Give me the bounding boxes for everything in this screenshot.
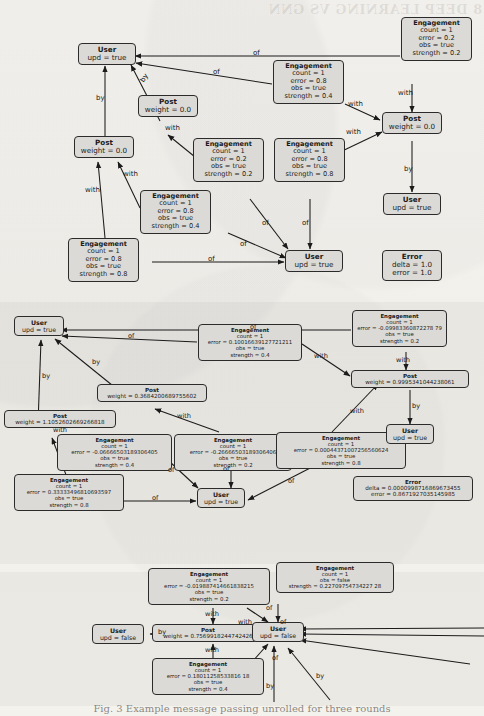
node-field: strength = 0.4	[144, 223, 207, 231]
node-field: strength = 0.2	[152, 596, 266, 602]
node-post[interactable]: Post weight = 0.7569918244742426	[152, 624, 264, 642]
edge-label: of	[128, 332, 134, 340]
node-field: weight = 0.0	[78, 147, 130, 155]
node-field: weight = 0.0	[386, 123, 438, 131]
edge-label: of	[302, 219, 309, 227]
node-field: strength = 0.2	[405, 50, 468, 58]
edge-label: with	[53, 426, 67, 434]
edge-label: of	[262, 219, 269, 227]
edge-label: of	[272, 654, 278, 662]
edge-label: with	[396, 356, 410, 364]
edge-label: with	[238, 618, 252, 626]
edge-label: with	[314, 352, 328, 360]
node-engagement[interactable]: Engagement count = 1 error = 0.8 obs = t…	[273, 60, 344, 104]
node-field: strength = 0.4	[277, 93, 340, 101]
node-field: upd = true	[201, 498, 241, 505]
edge-label: with	[123, 170, 138, 178]
edge-label: by	[316, 672, 324, 680]
node-post[interactable]: Post weight = 0.9995341044238061	[351, 370, 469, 388]
node-field: upd = false	[96, 634, 140, 641]
edge-label: of	[223, 465, 229, 473]
node-field: strength = 0.8	[18, 502, 120, 508]
node-field: error = 1.0	[386, 269, 438, 277]
edge-label: with	[346, 128, 361, 136]
node-engagement[interactable]: Engagement count = 1 error = -0.09983360…	[352, 310, 447, 347]
node-user[interactable]: User upd = true	[383, 193, 441, 215]
node-field: weight = 0.7569918244742426	[156, 633, 260, 639]
node-title: User	[390, 427, 430, 434]
node-error[interactable]: Error delta = 1.0 error = 1.0	[382, 250, 442, 281]
node-field: weight = 0.9995341044238061	[355, 379, 465, 385]
node-field: upd = true	[82, 54, 132, 62]
edge-label: of	[250, 323, 256, 331]
node-field: upd = true	[289, 261, 339, 269]
node-field: strength = 0.22709754734227 28	[280, 583, 390, 589]
panel-round-2: User upd = true Engagement count = 1 err…	[0, 302, 484, 564]
edge-label: of	[253, 49, 260, 57]
node-engagement[interactable]: Engagement count = 1 error = -0.06666503…	[57, 434, 172, 471]
node-post[interactable]: Post weight = 0.0	[382, 112, 442, 134]
panel-round-1: User upd = true Engagement count = 1 err…	[0, 0, 484, 288]
edge-label: of	[288, 477, 294, 485]
edge-label: with	[205, 646, 219, 654]
node-error[interactable]: Error delta = 0.0000998716869673455 erro…	[353, 476, 473, 501]
panel-round-3: Engagement count = 1 error = -0.01988741…	[0, 572, 484, 706]
node-title: User	[201, 491, 241, 498]
edge-label: by	[266, 682, 274, 690]
edge-label: with	[85, 186, 100, 194]
node-user[interactable]: User upd = true	[386, 424, 434, 444]
node-field: strength = 0.8	[72, 271, 135, 279]
node-post[interactable]: Post weight = 0.0	[138, 95, 198, 117]
edge-label: of	[240, 240, 247, 248]
node-field: error = 0.8671927035145985	[357, 491, 469, 497]
node-user[interactable]: User upd = true	[285, 250, 343, 272]
node-post[interactable]: Post weight = 0.3684200689755602	[97, 384, 207, 402]
node-field: strength = 0.2	[197, 171, 260, 179]
edge-label: by	[42, 372, 50, 380]
node-engagement[interactable]: Engagement count = 1 error = 0.8 obs = t…	[274, 138, 345, 182]
node-field: upd = false	[256, 632, 300, 639]
node-user[interactable]: User upd = false	[252, 622, 304, 642]
edge-label: with	[205, 610, 219, 618]
edge-label: with	[165, 124, 180, 132]
edge-label: with	[350, 407, 364, 415]
node-field: strength = 0.4	[202, 352, 298, 358]
edge-label: by	[158, 628, 166, 636]
node-engagement[interactable]: Engagement count = 1 error = 0.2 obs = t…	[401, 17, 472, 61]
node-title: User	[256, 625, 300, 632]
edge-label: with	[177, 412, 191, 420]
edge-label: with	[398, 89, 413, 97]
node-engagement[interactable]: Engagement count = 1 error = 0.8 obs = t…	[140, 190, 211, 234]
node-field: strength = 0.8	[278, 171, 341, 179]
node-user[interactable]: User upd = true	[14, 316, 64, 336]
node-engagement[interactable]: Engagement count = 1 error = -0.01988741…	[148, 568, 270, 605]
node-field: strength = 0.8	[280, 460, 402, 466]
node-field: strength = 0.4	[61, 462, 168, 468]
node-title: User	[18, 319, 60, 326]
node-post[interactable]: Post weight = 0.0	[74, 136, 134, 158]
node-field: weight = 0.3684200689755602	[101, 393, 203, 399]
edge-label: by	[404, 165, 413, 173]
node-engagement[interactable]: Engagement count = 1 error = -0.26666503…	[174, 434, 292, 471]
node-title: User	[96, 627, 140, 634]
node-engagement[interactable]: Engagement count = 1 error = 0.333334968…	[14, 474, 124, 511]
node-field: strength = 0.4	[156, 686, 260, 692]
edge-label: of	[280, 618, 286, 626]
node-field: upd = true	[18, 326, 60, 333]
edge-label: with	[348, 100, 363, 108]
edge-label: of	[208, 255, 215, 263]
node-engagement[interactable]: Engagement count = 1 error = 0.180112585…	[152, 658, 264, 695]
node-engagement[interactable]: Engagement count = 1 error = 0.8 obs = t…	[68, 238, 139, 282]
edge-label: by	[92, 358, 100, 366]
edge-label: of	[168, 466, 174, 474]
edge-label: by	[412, 402, 420, 410]
node-field: upd = true	[387, 204, 437, 212]
node-user[interactable]: User upd = true	[197, 488, 245, 508]
edge-label: of	[152, 494, 158, 502]
node-user[interactable]: User upd = false	[92, 624, 144, 644]
node-field: weight = 0.0	[142, 106, 194, 114]
node-engagement[interactable]: Engagement count = 1 obs = false strengt…	[276, 562, 394, 593]
node-field: strength = 0.2	[178, 462, 288, 468]
node-engagement[interactable]: Engagement count = 1 error = 0.2 obs = t…	[193, 138, 264, 182]
node-user[interactable]: User upd = true	[78, 43, 136, 65]
